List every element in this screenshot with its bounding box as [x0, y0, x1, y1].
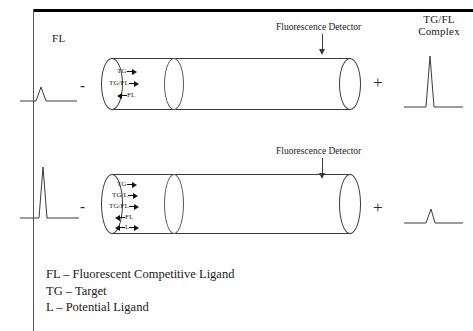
arrow-right-icon — [129, 203, 139, 210]
top-plus-operator: + — [373, 74, 383, 91]
bottom-left-electropherogram-peak — [20, 163, 80, 221]
bottom-right-electropherogram-peak — [404, 200, 464, 226]
arrow-left-icon — [117, 92, 127, 99]
species-row-l-bottom: L — [115, 224, 139, 231]
arrow-right-icon — [127, 181, 137, 188]
legend: FL – Fluorescent Competitive Ligand TG –… — [46, 266, 234, 316]
top-left-electropherogram-peak — [20, 78, 78, 104]
species-row-tgl-bottom: TG/L — [112, 192, 138, 199]
legend-line-fl: FL – Fluorescent Competitive Ligand — [46, 266, 234, 283]
tube-right-cap-top — [339, 58, 361, 110]
arrow-right-icon — [127, 68, 137, 75]
detector-arrow-top-icon — [317, 34, 329, 56]
top-right-electropherogram-peak — [404, 52, 464, 110]
arrow-left-icon — [115, 214, 125, 221]
bottom-plus-operator: + — [373, 199, 383, 216]
legend-line-tg: TG – Target — [46, 283, 234, 300]
top-left-peak-label: FL — [52, 33, 65, 45]
top-right-peak-label: TG/FL Complex — [411, 14, 467, 38]
tube-injection-plug-top — [164, 58, 184, 110]
capillary-tube-top: TG TG/FL FL — [101, 58, 361, 110]
arrow-right-icon — [128, 192, 138, 199]
arrow-right-icon — [129, 224, 139, 231]
tube-injection-plug-bottom — [164, 174, 184, 234]
species-row-tg-top: TG — [117, 68, 137, 75]
bottom-minus-operator: - — [80, 199, 85, 214]
species-row-tg-bottom: TG — [117, 181, 137, 188]
frame-top-border — [33, 9, 473, 12]
species-row-fl-bottom: FL — [115, 214, 133, 221]
detector-label-top: Fluorescence Detector — [276, 22, 361, 32]
legend-line-l: L – Potential Ligand — [46, 299, 234, 316]
arrow-right-icon — [129, 80, 139, 87]
capillary-tube-bottom: TG TG/L TG/FL FL L — [101, 174, 361, 234]
species-row-tgfl-top: TG/FL — [109, 80, 139, 87]
top-minus-operator: - — [80, 78, 85, 93]
species-row-fl-top: FL — [117, 92, 135, 99]
tube-right-cap-bottom — [339, 174, 361, 234]
figure-canvas: FL TG/FL Complex Fluorescence Detector -… — [0, 0, 473, 331]
detector-label-bottom: Fluorescence Detector — [276, 146, 361, 156]
arrow-left-icon — [115, 224, 125, 231]
species-row-tgfl-bottom: TG/FL — [109, 203, 139, 210]
